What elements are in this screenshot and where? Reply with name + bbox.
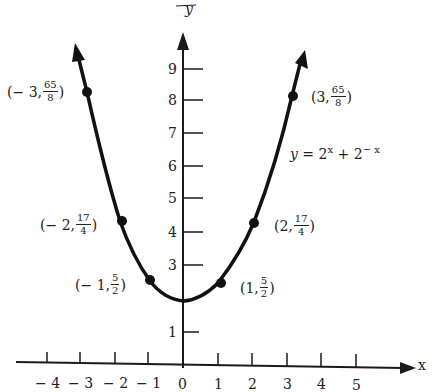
point-label-3: (3, 658 ) <box>311 85 352 108</box>
point-label-neg1: (− 1, 52 ) <box>75 273 126 296</box>
fraction: 52 <box>111 273 119 296</box>
point-neg3 <box>82 87 92 97</box>
x-tick-label: 2 <box>248 377 257 391</box>
curve-arrow-left-icon <box>72 43 85 62</box>
fraction: 658 <box>331 85 346 108</box>
x-axis-arrow-icon <box>400 362 416 374</box>
point-neg2 <box>117 216 127 226</box>
fraction: 174 <box>294 214 309 237</box>
point-label-2: (2, 174 ) <box>274 214 315 237</box>
y-tick-label: 4 <box>168 225 177 239</box>
x-tick-label: 1 <box>214 377 223 391</box>
y-tick-label: 9 <box>168 62 177 76</box>
y-tick-label: 6 <box>168 159 177 173</box>
x-axis-label: x <box>418 358 426 372</box>
point-label-neg2: (− 2, 174 ) <box>40 213 97 236</box>
y-tick-label: 7 <box>168 126 177 140</box>
x-tick-label: − 1 <box>136 376 161 390</box>
point-3 <box>288 91 298 101</box>
y-tick-label: 3 <box>168 258 177 272</box>
fraction: 658 <box>43 80 58 103</box>
x-tick-label: − 2 <box>103 376 128 390</box>
x-axis-line <box>16 362 404 368</box>
y-tick-label: 8 <box>168 93 177 107</box>
y-tick-label: 5 <box>168 191 177 205</box>
curve-arrow-right-icon <box>295 50 308 69</box>
y-ticks <box>183 69 203 332</box>
fraction: 52 <box>260 276 268 299</box>
point-label-1: (1, 52 ) <box>240 276 275 299</box>
x-tick-label: 0 <box>178 377 187 391</box>
x-tick-label: − 3 <box>68 376 93 390</box>
x-tick-label: 4 <box>317 377 326 391</box>
point-1 <box>216 278 226 288</box>
y-axis-label: y <box>185 2 193 16</box>
x-tick-label: 3 <box>283 377 292 391</box>
equation-label: y = 2x + 2− x <box>290 144 380 162</box>
y-axis-arrow-icon <box>177 32 189 50</box>
x-tick-label: 5 <box>352 378 361 392</box>
point-2 <box>249 218 259 228</box>
point-label-neg3: (− 3, 658 ) <box>7 80 64 103</box>
graph-canvas <box>0 0 433 392</box>
y-tick-label: 1 <box>168 325 177 339</box>
point-neg1 <box>145 275 155 285</box>
fraction: 174 <box>76 213 91 236</box>
x-tick-label: − 4 <box>35 376 60 390</box>
